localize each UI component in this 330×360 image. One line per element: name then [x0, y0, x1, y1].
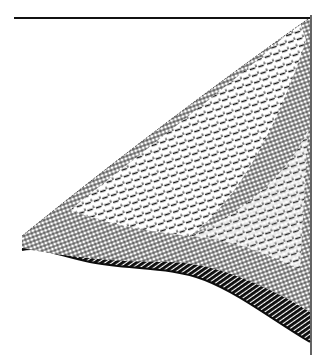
mesh-surface-figure — [0, 0, 330, 360]
mesh-illustration — [0, 0, 330, 360]
